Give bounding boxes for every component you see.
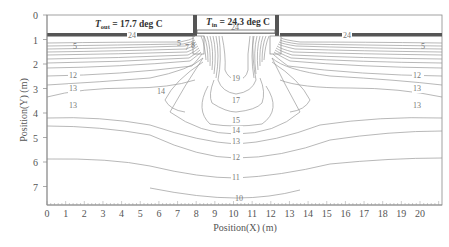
contour-label: 24 — [343, 31, 351, 40]
x-tick-label: 5 — [138, 208, 143, 219]
x-tick-label: 0 — [45, 208, 50, 219]
y-tick-label: 2 — [33, 59, 38, 70]
contour-label: 10 — [235, 194, 243, 203]
x-tick-label: 13 — [284, 208, 294, 219]
contour-label: 14 — [232, 126, 240, 135]
x-tick-label: 18 — [378, 208, 388, 219]
x-tick-label: 2 — [82, 208, 87, 219]
x-tick-label: 4 — [119, 208, 124, 219]
contour-label: 12 — [69, 71, 77, 80]
y-tick-label: 1 — [33, 35, 38, 46]
ground-slab-left — [47, 33, 195, 37]
contour-label: 13 — [232, 137, 240, 146]
x-axis-title: Position(X) (m) — [213, 222, 277, 234]
y-axis: 0 1 2 3 4 5 6 7 Position(Y) (m) — [18, 10, 47, 205]
y-tick-label: 4 — [33, 108, 38, 119]
contour-label: 13 — [69, 84, 77, 93]
contour-label: 12 — [413, 71, 421, 80]
x-tick-label: 14 — [303, 208, 313, 219]
x-tick-label: 11 — [247, 208, 257, 219]
contour-label: 7 — [185, 43, 189, 52]
contour-label: 19 — [232, 74, 240, 83]
y-tick-label: 7 — [33, 182, 38, 193]
ground-slab-right — [280, 33, 442, 37]
y-axis-title: Position(Y) (m) — [18, 78, 30, 142]
contour-label: 13 — [69, 101, 77, 110]
x-tick-label: 12 — [266, 208, 276, 219]
contour-label: 24 — [128, 31, 136, 40]
x-tick-label: 9 — [212, 208, 217, 219]
x-tick-label: 15 — [322, 208, 332, 219]
y-tick-label: 6 — [33, 157, 38, 168]
x-tick-label: 3 — [100, 208, 105, 219]
x-tick-label: 16 — [340, 208, 350, 219]
x-tick-label: 1 — [63, 208, 68, 219]
contour-label: 13 — [413, 84, 421, 93]
x-tick-label: 19 — [396, 208, 406, 219]
contour-label: 15 — [232, 116, 240, 125]
y-tick-label: 3 — [33, 84, 38, 95]
y-tick-label: 5 — [33, 133, 38, 144]
contour-label: 14 — [157, 87, 165, 96]
x-tick-label: 7 — [175, 208, 180, 219]
contour-label: 13 — [413, 101, 421, 110]
contour-chart: 24 24 24 5 5 7 8 5 12 12 13 13 13 13 14 … — [0, 0, 449, 247]
x-tick-label: 10 — [229, 208, 239, 219]
contour-label: 8 — [191, 41, 195, 50]
contour-label: 5 — [73, 42, 77, 51]
contour-label: 12 — [232, 153, 240, 162]
x-axis: 01234567891011121314151617181920 Positio… — [45, 201, 443, 234]
contour-label: 5 — [421, 42, 425, 51]
x-tick-label: 6 — [156, 208, 161, 219]
x-tick-label: 20 — [415, 208, 425, 219]
contour-label: 17 — [232, 96, 240, 105]
contour-label: 5 — [177, 39, 181, 48]
y-tick-label: 0 — [33, 10, 38, 21]
x-tick-label: 8 — [194, 208, 199, 219]
wall-left — [193, 15, 197, 36]
wall-right — [275, 15, 279, 36]
contour-label: 11 — [232, 173, 240, 182]
plot-area — [47, 15, 442, 205]
x-tick-label: 17 — [359, 208, 369, 219]
